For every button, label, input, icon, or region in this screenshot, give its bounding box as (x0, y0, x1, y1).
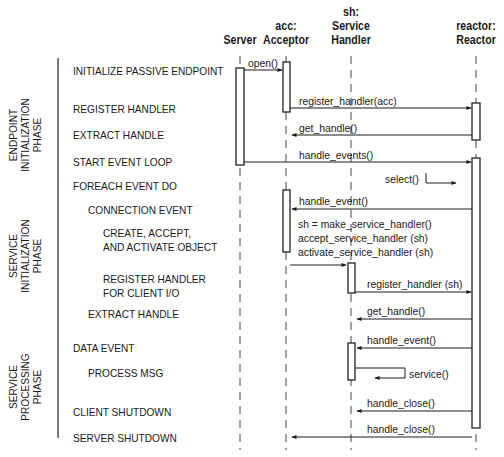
participant-acceptor-class: Acceptor (260, 33, 313, 47)
step-data-event: DATA EVENT (73, 341, 134, 355)
participant-server: Server (218, 33, 262, 47)
msg-register-handler-acc: register_handler(acc) (299, 94, 397, 108)
phase-label-line: PHASE (31, 214, 43, 298)
phase-label-line: PHASE (31, 93, 43, 177)
arrow-select (426, 173, 456, 183)
participant-reactor-class: Reactor (451, 33, 502, 47)
msg-open: open() (248, 56, 278, 70)
participant-reactor: reactor: Reactor (451, 19, 502, 47)
server-activation (236, 68, 244, 165)
participant-sh-class-line2: Handler (323, 33, 379, 47)
service-handler-activation-2 (348, 343, 355, 380)
step-register-handler-client-io: REGISTER HANDLER FOR CLIENT I/O (103, 272, 206, 300)
step-line: FOR CLIENT I/O (103, 286, 206, 300)
phase-label-line: INITIALIZATION (19, 214, 31, 298)
participant-server-name: Server (218, 33, 262, 47)
msg-select: select() (385, 172, 419, 186)
step-line: CREATE, ACCEPT, (103, 226, 217, 240)
step-foreach-event-do: FOREACH EVENT DO (73, 179, 177, 193)
arrow-service (355, 368, 405, 378)
phase-label-line: ENDPOINT (7, 93, 19, 177)
acceptor-activation-2 (283, 190, 290, 252)
msg-line: sh = make_service_handler() (298, 217, 433, 231)
msg-service: service() (409, 367, 449, 381)
step-extract-handle: EXTRACT HANDLE (73, 128, 164, 142)
step-line: REGISTER HANDLER (103, 272, 206, 286)
participant-service-handler: sh: Service Handler (323, 5, 379, 47)
phase-service-processing: SERVICE PROCESSING PHASE (7, 345, 45, 429)
msg-handle-close-1: handle_close() (367, 396, 435, 410)
step-connection-event: CONNECTION EVENT (88, 203, 193, 217)
participant-sh-instance: sh: (323, 5, 379, 19)
phase-service-initialization: SERVICE INITIALIZATION PHASE (7, 214, 45, 298)
participant-sh-class-line1: Service (323, 19, 379, 33)
step-process-msg: PROCESS MSG (88, 366, 163, 380)
participant-reactor-instance: reactor: (451, 19, 502, 33)
msg-create-service-handler: sh = make_service_handler() accept_servi… (298, 217, 433, 259)
msg-get-handle-2: get_handle() (367, 304, 425, 318)
msg-handle-close-2: handle_close() (367, 422, 435, 436)
reactor-activation-1 (472, 103, 480, 140)
msg-get-handle-1: get_handle() (299, 121, 357, 135)
msg-register-handler-sh: register_handler (sh) (367, 277, 462, 291)
step-client-shutdown: CLIENT SHUTDOWN (73, 405, 171, 419)
participant-acceptor-instance: acc: (260, 19, 313, 33)
reactor-activation-2 (472, 158, 480, 428)
step-server-shutdown: SERVER SHUTDOWN (73, 431, 177, 445)
phase-label-line: SERVICE (7, 345, 19, 429)
msg-handle-event-2: handle_event() (367, 333, 436, 347)
phase-label-line: INITIALIZATION (19, 93, 31, 177)
acceptor-activation-1 (283, 62, 290, 112)
phase-endpoint-initialization: ENDPOINT INITIALIZATION PHASE (7, 93, 45, 177)
step-initialize-passive-endpoint: INITIALIZE PASSIVE ENDPOINT (73, 64, 224, 78)
msg-line: activate_service_handler (sh) (298, 245, 433, 259)
msg-line: accept_service_handler (sh) (298, 231, 433, 245)
step-register-handler: REGISTER HANDLER (73, 102, 176, 116)
step-extract-handle-2: EXTRACT HANDLE (88, 307, 179, 321)
service-handler-activation-1 (348, 263, 355, 293)
msg-handle-events: handle_events() (299, 148, 373, 162)
phase-label-line: PHASE (31, 345, 43, 429)
step-start-event-loop: START EVENT LOOP (73, 155, 172, 169)
msg-handle-event-1: handle_event() (299, 194, 368, 208)
phase-label-line: SERVICE (7, 214, 19, 298)
step-line: AND ACTIVATE OBJECT (103, 240, 217, 254)
step-create-accept-activate: CREATE, ACCEPT, AND ACTIVATE OBJECT (103, 226, 217, 254)
participant-acceptor: acc: Acceptor (260, 19, 313, 47)
phase-label-line: PROCESSING (19, 345, 31, 429)
